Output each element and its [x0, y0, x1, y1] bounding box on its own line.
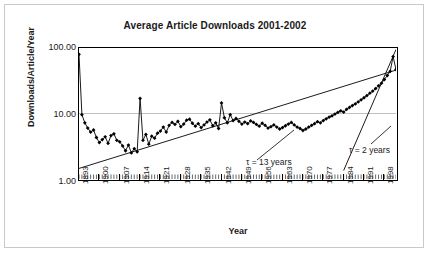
x-tick-label: 1942 — [224, 166, 233, 184]
x-major-tick — [241, 174, 242, 181]
x-tick-label: 1963 — [285, 166, 294, 184]
x-major-tick — [343, 174, 344, 181]
x-tick-label: 1935 — [203, 166, 212, 184]
x-tick-label: 1907 — [122, 166, 131, 184]
x-major-tick — [139, 174, 140, 181]
x-tick-label: 1900 — [101, 166, 110, 184]
x-major-tick — [363, 174, 364, 181]
x-tick-label: 1893 — [81, 166, 90, 184]
x-major-tick — [98, 174, 99, 181]
x-tick-label: 1928 — [183, 166, 192, 184]
x-major-tick — [159, 174, 160, 181]
x-major-tick — [322, 174, 323, 181]
x-major-tick — [282, 174, 283, 181]
x-tick-label: 1970 — [305, 166, 314, 184]
x-major-tick — [221, 174, 222, 181]
x-major-tick — [261, 174, 262, 181]
x-major-tick — [302, 174, 303, 181]
x-major-tick — [200, 174, 201, 181]
x-major-tick — [180, 174, 181, 181]
x-tick-label: 1977 — [325, 166, 334, 184]
x-major-tick — [383, 174, 384, 181]
x-major-tick — [78, 174, 79, 181]
x-axis-title: Year — [78, 226, 398, 236]
x-tick-label: 1921 — [162, 166, 171, 184]
x-tick-label: 1956 — [264, 166, 273, 184]
x-tick-label: 1991 — [366, 166, 375, 184]
x-axis-tick-labels: 1893190019071914192119281935194219491956… — [0, 0, 430, 254]
x-tick-label: 1914 — [142, 166, 151, 184]
x-tick-label: 1984 — [346, 166, 355, 184]
x-tick-label: 1998 — [386, 166, 395, 184]
x-major-tick — [119, 174, 120, 181]
x-tick-label: 1949 — [244, 166, 253, 184]
chart-figure: Average Article Downloads 2001-2002 Down… — [0, 0, 430, 254]
